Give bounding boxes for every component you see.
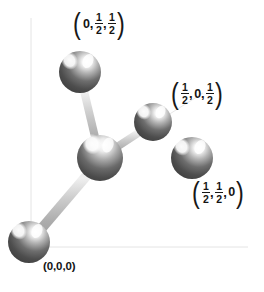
term-z: 12 <box>108 12 116 35</box>
coordinate-label-half-0-half: ( 12 , 0, 12 ) (1/2, 0, 1/2) <box>170 82 224 107</box>
crystal-structure-figure: ( 0, 12 , 12 ) (0, 1/2, 1/2) <box>0 0 264 292</box>
term-x: 12 , <box>181 82 194 105</box>
term-y: 0, <box>194 87 206 101</box>
left-paren: ( <box>171 82 179 105</box>
term-x: 0, <box>83 17 95 31</box>
atom-0-half-half <box>58 48 101 93</box>
term-x: 12 , <box>202 181 215 204</box>
structure-canvas <box>0 0 264 292</box>
term-y: 12 , <box>215 181 228 204</box>
right-paren: ) <box>236 181 244 204</box>
central-atom <box>77 131 123 181</box>
term-z: 0 <box>228 186 235 199</box>
caption-fragment <box>0 286 264 292</box>
term-z: 12 <box>206 82 214 105</box>
right-paren: ) <box>117 12 125 35</box>
coordinate-label-origin: (0,0,0) <box>43 261 76 273</box>
atom-half-half-0 <box>170 134 213 179</box>
right-paren: ) <box>215 82 223 105</box>
coordinate-label-0-half-half: ( 0, 12 , 12 ) (0, 1/2, 1/2) <box>72 12 126 37</box>
coordinate-label-half-half-0: ( 12 , 12 , 0 ) (1/2, 1/2, 0) <box>191 181 245 206</box>
term-y: 12 , <box>95 12 108 35</box>
left-paren: ( <box>192 181 200 204</box>
left-paren: ( <box>73 12 81 35</box>
